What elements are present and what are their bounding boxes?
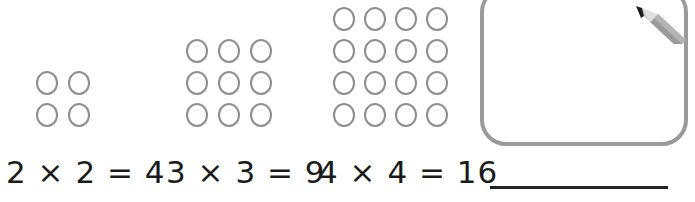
array-dot-icon: [186, 39, 208, 63]
array-dot-icon: [395, 7, 417, 31]
array-dot-icon: [364, 103, 386, 127]
array-dot-icon: [333, 7, 355, 31]
equation-row: 2 × 2 = 4 3 × 3 = 9 4 × 4 = 16: [0, 152, 695, 198]
array-dot-icon: [426, 103, 448, 127]
array-dot-icon: [395, 39, 417, 63]
equation-3x3: 3 × 3 = 9: [166, 152, 326, 192]
blank-answer-box[interactable]: [480, 0, 688, 146]
equation-2x2: 2 × 2 = 4: [6, 152, 166, 192]
worksheet-canvas: 2 × 2 = 4 3 × 3 = 9 4 × 4 = 16: [0, 0, 695, 202]
array-group-2x2: [36, 71, 100, 135]
array-group-4x4: [333, 7, 457, 135]
array-row: [36, 71, 100, 95]
array-row: [186, 71, 282, 95]
array-dot-icon: [333, 39, 355, 63]
array-dot-icon: [250, 39, 272, 63]
array-row: [333, 103, 457, 127]
equation-4x4: 4 × 4 = 16: [318, 152, 498, 192]
array-dot-icon: [250, 103, 272, 127]
array-dot-icon: [426, 39, 448, 63]
array-row: [36, 103, 100, 127]
array-dot-icon: [218, 71, 240, 95]
answer-blank-line[interactable]: [490, 186, 668, 189]
array-dot-icon: [186, 71, 208, 95]
array-dot-icon: [395, 103, 417, 127]
array-dot-icon: [333, 103, 355, 127]
array-dot-icon: [364, 7, 386, 31]
array-dot-icon: [426, 7, 448, 31]
array-dot-icon: [364, 39, 386, 63]
array-dot-icon: [68, 103, 90, 127]
array-row: [333, 7, 457, 31]
array-dot-icon: [36, 71, 58, 95]
array-row: [333, 71, 457, 95]
array-row: [333, 39, 457, 63]
array-row: [186, 39, 282, 63]
array-dot-icon: [68, 71, 90, 95]
array-row: [186, 103, 282, 127]
array-dot-icon: [364, 71, 386, 95]
array-dot-icon: [395, 71, 417, 95]
array-dot-icon: [218, 39, 240, 63]
array-dot-icon: [218, 103, 240, 127]
array-dot-icon: [333, 71, 355, 95]
array-dot-icon: [36, 103, 58, 127]
array-dot-icon: [426, 71, 448, 95]
array-group-3x3: [186, 39, 282, 135]
array-dot-icon: [186, 103, 208, 127]
array-dot-icon: [250, 71, 272, 95]
